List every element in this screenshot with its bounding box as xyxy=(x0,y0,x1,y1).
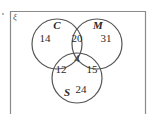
region-c-s: 12 xyxy=(56,64,67,75)
set-label-s: S xyxy=(64,87,70,98)
region-c-m: 20 xyxy=(72,33,83,44)
set-label-c: C xyxy=(53,20,60,31)
venn-diagram: ξ C M S 14 31 24 20 12 15 4 xyxy=(0,0,149,114)
region-c-only: 14 xyxy=(40,33,51,44)
region-m-s: 15 xyxy=(87,64,98,75)
set-label-m: M xyxy=(93,20,103,31)
region-s-only: 24 xyxy=(76,84,87,95)
universal-set-symbol: ξ xyxy=(13,13,17,22)
region-m-only: 31 xyxy=(101,33,112,44)
region-c-m-s: 4 xyxy=(74,53,80,64)
